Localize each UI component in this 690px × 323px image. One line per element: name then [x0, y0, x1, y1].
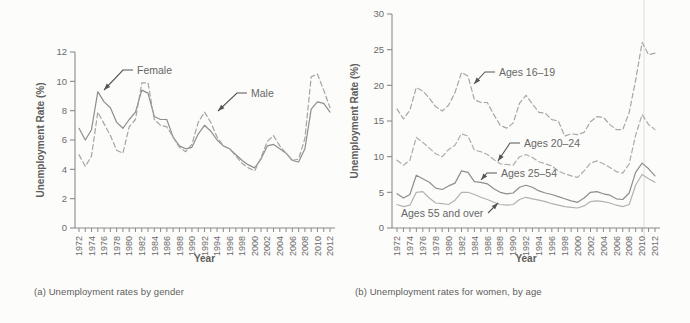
y-tick-label: 10	[373, 151, 384, 162]
annotation-ages-16-19: Ages 16–19	[474, 66, 555, 84]
x-tick-label: 1984	[470, 236, 480, 256]
x-tick-label: 1976	[99, 236, 109, 256]
x-tick-label: 1972	[74, 236, 84, 256]
x-tick-label: 2010	[313, 236, 323, 256]
chart-b-svg: 0510152025301972197419761978198019821984…	[345, 0, 690, 285]
y-axis-title: Unemployment Rate (%)	[35, 82, 46, 197]
x-tick-label: 1978	[112, 236, 122, 256]
x-tick-label: 2004	[275, 236, 285, 256]
chart-unemployment-women-by-age: 0510152025301972197419761978198019821984…	[345, 0, 690, 323]
y-tick-label: 12	[56, 46, 67, 57]
x-tick-label: 1974	[87, 236, 97, 256]
series-label: Ages 55 and over	[401, 207, 484, 219]
chart-unemployment-by-gender: 0246810121972197419761978198019821984198…	[0, 0, 345, 323]
x-axis-title: Year	[515, 253, 536, 264]
arrowhead-icon	[498, 154, 504, 161]
y-axis-ticks: 051015202530	[373, 8, 392, 233]
chart-a-caption: (a) Unemployment rates by gender	[34, 286, 184, 297]
x-tick-label: 1986	[483, 236, 493, 256]
x-tick-label: 2012	[325, 236, 335, 256]
series-label: Female	[137, 64, 172, 76]
y-tick-label: 2	[62, 193, 67, 204]
x-tick-label: 1974	[405, 236, 415, 256]
x-tick-label: 2010	[637, 236, 647, 256]
chart-a-svg: 0246810121972197419761978198019821984198…	[0, 0, 345, 285]
x-axis-title: Year	[194, 253, 215, 264]
x-tick-label: 2008	[624, 236, 634, 256]
series-label: Ages 20–24	[524, 137, 580, 149]
x-tick-label: 2006	[288, 236, 298, 256]
x-axis-ticks: 1972197419761978198019821984198619881990…	[392, 228, 660, 256]
y-tick-label: 10	[56, 76, 67, 87]
series-line-female	[79, 90, 330, 168]
series-line-ages-55-and-over	[397, 175, 655, 209]
x-tick-label: 1980	[444, 236, 454, 256]
y-tick-label: 8	[62, 105, 67, 116]
x-tick-label: 1976	[418, 236, 428, 256]
x-tick-label: 1982	[457, 236, 467, 256]
x-tick-label: 1986	[162, 236, 172, 256]
y-tick-label: 0	[62, 222, 67, 233]
x-tick-label: 2000	[250, 236, 260, 256]
x-tick-label: 1978	[431, 236, 441, 256]
y-tick-label: 15	[373, 115, 384, 126]
chart-b-caption: (b) Unemployment rates for women, by age	[355, 286, 542, 297]
x-tick-label: 2006	[612, 236, 622, 256]
x-tick-label: 1996	[225, 236, 235, 256]
x-tick-label: 2002	[262, 236, 272, 256]
annotation-male: Male	[218, 87, 274, 111]
y-tick-label: 20	[373, 80, 384, 91]
series-label: Male	[251, 87, 274, 99]
x-tick-label: 1972	[392, 236, 402, 256]
y-tick-label: 4	[62, 164, 67, 175]
x-tick-label: 2012	[650, 236, 660, 256]
series-label: Ages 25–54	[501, 167, 557, 179]
y-tick-label: 0	[379, 222, 384, 233]
series-line-ages-16-19	[397, 43, 655, 137]
annotation-female: Female	[104, 64, 172, 90]
annotation-ages-55-and-over: Ages 55 and over	[401, 203, 498, 219]
series-label: Ages 16–19	[499, 66, 555, 78]
y-tick-label: 30	[373, 8, 384, 19]
x-axis-ticks: 1972197419761978198019821984198619881990…	[74, 228, 335, 256]
annotation-ages-25-54: Ages 25–54	[481, 167, 557, 180]
x-tick-label: 1982	[137, 236, 147, 256]
axes	[75, 52, 335, 228]
y-tick-label: 6	[62, 134, 67, 145]
x-tick-label: 1980	[124, 236, 134, 256]
x-tick-label: 1988	[175, 236, 185, 256]
y-axis-title: Unemployment Rate (%)	[349, 63, 360, 178]
x-tick-label: 2000	[573, 236, 583, 256]
annotation-ages-20-24: Ages 20–24	[498, 137, 580, 161]
x-tick-label: 1984	[150, 236, 160, 256]
x-tick-label: 1996	[547, 236, 557, 256]
x-tick-label: 1988	[495, 236, 505, 256]
y-axis-ticks: 024681012	[56, 46, 75, 233]
axes	[392, 14, 660, 228]
x-tick-label: 2004	[599, 236, 609, 256]
x-tick-label: 1998	[560, 236, 570, 256]
x-tick-label: 2002	[586, 236, 596, 256]
y-tick-label: 5	[379, 187, 384, 198]
y-tick-label: 25	[373, 44, 384, 55]
x-tick-label: 1998	[237, 236, 247, 256]
textbook-figure-canvas: 0246810121972197419761978198019821984198…	[0, 0, 690, 323]
x-tick-label: 2008	[300, 236, 310, 256]
